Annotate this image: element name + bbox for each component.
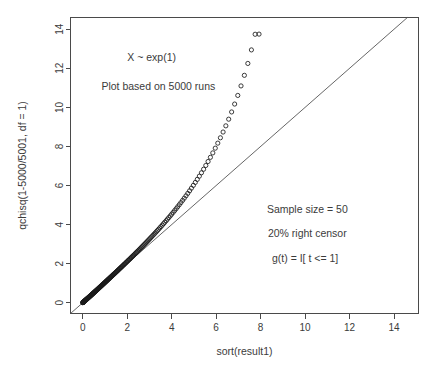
y-tick-label: 14 bbox=[54, 23, 65, 35]
annotation-label: Plot based on 5000 runs bbox=[101, 80, 215, 92]
annotation-label: 20% right censor bbox=[268, 227, 347, 239]
x-axis-title: sort(result1) bbox=[216, 345, 272, 357]
x-tick-label: 6 bbox=[213, 322, 219, 333]
y-tick-label: 2 bbox=[54, 260, 65, 266]
y-tick-label: 4 bbox=[54, 221, 65, 227]
y-tick-label: 12 bbox=[54, 62, 65, 74]
y-tick-label: 6 bbox=[54, 182, 65, 188]
annotation-label: g(t) = I[ t <= 1] bbox=[272, 252, 338, 264]
qq-plot-figure: 02468101214 02468101214 X ~ exp(1)Plot b… bbox=[0, 0, 443, 377]
y-tick-label: 0 bbox=[54, 300, 65, 306]
x-tick-label: 0 bbox=[80, 322, 86, 333]
x-tick-label: 10 bbox=[300, 322, 312, 333]
y-tick-label: 10 bbox=[54, 101, 65, 113]
annotation-label: X ~ exp(1) bbox=[127, 51, 176, 63]
x-tick-label: 2 bbox=[124, 322, 130, 333]
annotation-label: Sample size = 50 bbox=[267, 203, 348, 215]
x-tick-label: 4 bbox=[169, 322, 175, 333]
plot-canvas: 02468101214 02468101214 X ~ exp(1)Plot b… bbox=[0, 0, 443, 377]
x-tick-label: 14 bbox=[388, 322, 400, 333]
y-axis-title: qchisq(1-5000/5001, df = 1) bbox=[16, 101, 28, 230]
x-tick-label: 8 bbox=[258, 322, 264, 333]
x-tick-label: 12 bbox=[344, 322, 356, 333]
figure-background bbox=[0, 0, 443, 377]
y-tick-label: 8 bbox=[54, 143, 65, 149]
